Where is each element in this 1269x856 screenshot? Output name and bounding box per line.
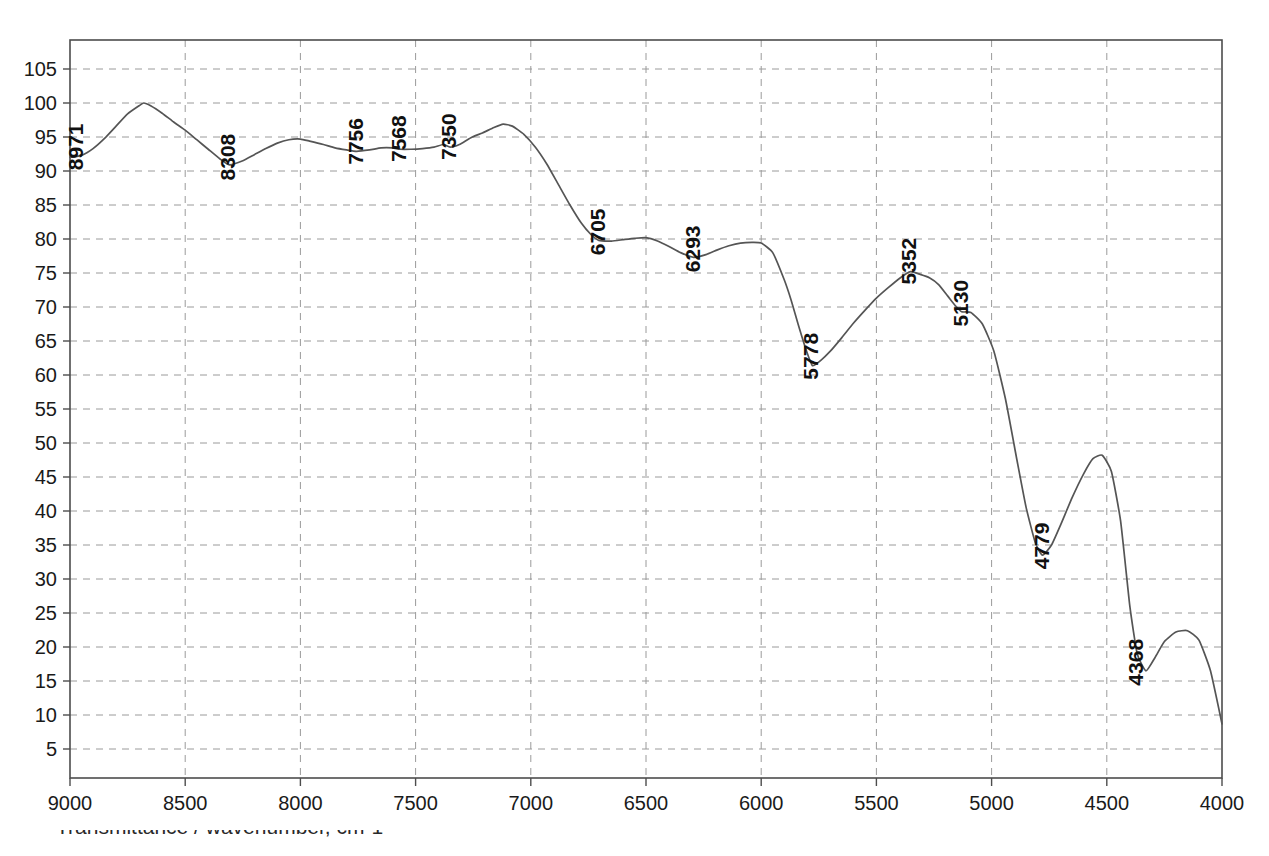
- y-tick-label: 55: [35, 398, 57, 420]
- peak-label-6293: 6293: [681, 225, 704, 272]
- peak-annotations: 8971830877567568735067056293577853525130…: [64, 113, 1148, 685]
- y-tick-label: 10: [35, 704, 57, 726]
- x-axis-tick-labels: 9000850080007500700065006000550050004500…: [48, 792, 1245, 814]
- x-tick-label: 4500: [1085, 792, 1130, 814]
- x-tick-label: 5500: [854, 792, 899, 814]
- y-axis-tick-labels: 5101520253035404550556065707580859095100…: [24, 58, 57, 760]
- y-tick-label: 5: [46, 738, 57, 760]
- y-tick-label: 90: [35, 160, 57, 182]
- x-tick-label: 9000: [48, 792, 93, 814]
- x-tick-label: 6000: [739, 792, 784, 814]
- y-tick-label: 30: [35, 568, 57, 590]
- x-axis-ticks: [70, 778, 1222, 786]
- y-tick-label: 75: [35, 262, 57, 284]
- peak-label-5352: 5352: [898, 238, 921, 285]
- x-tick-label: 4000: [1200, 792, 1245, 814]
- y-tick-label: 50: [35, 432, 57, 454]
- peak-label-5130: 5130: [949, 280, 972, 327]
- x-tick-label: 5000: [969, 792, 1014, 814]
- peak-label-4779: 4779: [1030, 523, 1053, 570]
- peak-label-7568: 7568: [387, 115, 410, 162]
- x-tick-label: 7000: [509, 792, 554, 814]
- y-tick-label: 95: [35, 126, 57, 148]
- peak-label-6705: 6705: [586, 208, 609, 255]
- peak-label-7350: 7350: [437, 113, 460, 160]
- spectrum-chart: 5101520253035404550556065707580859095100…: [0, 0, 1269, 856]
- y-tick-label: 15: [35, 670, 57, 692]
- y-tick-label: 25: [35, 602, 57, 624]
- x-tick-label: 6500: [624, 792, 669, 814]
- y-tick-label: 20: [35, 636, 57, 658]
- peak-label-8971: 8971: [64, 123, 87, 170]
- spectrum-plot: 5101520253035404550556065707580859095100…: [0, 0, 1269, 856]
- peak-label-7756: 7756: [344, 118, 367, 165]
- peak-label-8308: 8308: [216, 133, 239, 180]
- footer-caption-strip: Transmittance / wavenumber, cm-1: [0, 830, 1269, 856]
- x-tick-label: 7500: [393, 792, 438, 814]
- y-tick-label: 100: [24, 92, 57, 114]
- y-tick-label: 85: [35, 194, 57, 216]
- footer-caption: Transmittance / wavenumber, cm-1: [56, 830, 383, 839]
- peak-label-5778: 5778: [799, 333, 822, 380]
- y-tick-label: 35: [35, 534, 57, 556]
- peak-label-4368: 4368: [1124, 639, 1147, 686]
- y-tick-label: 45: [35, 466, 57, 488]
- x-tick-label: 8000: [278, 792, 323, 814]
- y-tick-label: 60: [35, 364, 57, 386]
- y-tick-label: 80: [35, 228, 57, 250]
- y-tick-label: 40: [35, 500, 57, 522]
- y-tick-label: 65: [35, 330, 57, 352]
- y-tick-label: 70: [35, 296, 57, 318]
- x-tick-label: 8500: [163, 792, 208, 814]
- y-tick-label: 105: [24, 58, 57, 80]
